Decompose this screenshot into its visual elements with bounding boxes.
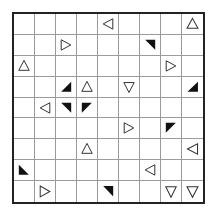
grid-cell-r3-c5[interactable] xyxy=(119,77,140,98)
grid-cell-r5-c5[interactable] xyxy=(119,118,140,139)
grid-cell-r0-c1[interactable] xyxy=(35,14,56,35)
black-triangle-nw-icon xyxy=(161,118,181,138)
grid-cell-r2-c6[interactable] xyxy=(140,56,161,77)
grid-cell-r3-c2[interactable] xyxy=(56,77,77,98)
grid-cell-r7-c2[interactable] xyxy=(56,160,77,181)
grid-cell-r5-c0[interactable] xyxy=(14,118,35,139)
grid-cell-r7-c4[interactable] xyxy=(98,160,119,181)
grid-cell-r4-c6[interactable] xyxy=(140,98,161,119)
grid-cell-r6-c3[interactable] xyxy=(77,139,98,160)
grid-cell-r8-c0[interactable] xyxy=(14,181,35,202)
grid-cell-r5-c7[interactable] xyxy=(161,118,182,139)
grid-cell-r6-c8[interactable] xyxy=(182,139,203,160)
grid-cell-r2-c8[interactable] xyxy=(182,56,203,77)
grid-cell-r4-c4[interactable] xyxy=(98,98,119,119)
grid-cell-r6-c2[interactable] xyxy=(56,139,77,160)
grid-cell-r5-c4[interactable] xyxy=(98,118,119,139)
grid-cell-r0-c0[interactable] xyxy=(14,14,35,35)
grid-cell-r5-c6[interactable] xyxy=(140,118,161,139)
grid-cell-r7-c3[interactable] xyxy=(77,160,98,181)
grid-cell-r2-c0[interactable] xyxy=(14,56,35,77)
grid-cell-r0-c8[interactable] xyxy=(182,14,203,35)
outline-triangle-left-icon xyxy=(98,14,118,34)
outline-triangle-right-icon xyxy=(56,35,76,55)
outline-triangle-down-icon xyxy=(119,77,139,97)
grid-cell-r2-c7[interactable] xyxy=(161,56,182,77)
grid-cell-r2-c3[interactable] xyxy=(77,56,98,77)
black-triangle-se-icon xyxy=(56,77,76,97)
grid-cell-r8-c1[interactable] xyxy=(35,181,56,202)
grid-cell-r4-c3[interactable] xyxy=(77,98,98,119)
outline-triangle-left-icon xyxy=(140,160,160,180)
grid-cell-r5-c3[interactable] xyxy=(77,118,98,139)
black-triangle-ne-icon xyxy=(98,181,118,202)
grid-cell-r1-c1[interactable] xyxy=(35,35,56,56)
grid-cell-r3-c8[interactable] xyxy=(182,77,203,98)
black-triangle-nw-icon xyxy=(77,98,97,118)
grid-cell-r8-c2[interactable] xyxy=(56,181,77,202)
grid-cell-r3-c6[interactable] xyxy=(140,77,161,98)
grid-cell-r1-c5[interactable] xyxy=(119,35,140,56)
grid-cell-r6-c0[interactable] xyxy=(14,139,35,160)
grid-cell-r6-c5[interactable] xyxy=(119,139,140,160)
grid-cell-r5-c2[interactable] xyxy=(56,118,77,139)
grid-cell-r5-c8[interactable] xyxy=(182,118,203,139)
grid-cell-r4-c0[interactable] xyxy=(14,98,35,119)
grid-cell-r6-c7[interactable] xyxy=(161,139,182,160)
grid-cell-r3-c7[interactable] xyxy=(161,77,182,98)
grid-cell-r2-c4[interactable] xyxy=(98,56,119,77)
grid-cell-r4-c8[interactable] xyxy=(182,98,203,119)
grid-cell-r7-c1[interactable] xyxy=(35,160,56,181)
grid-cell-r0-c2[interactable] xyxy=(56,14,77,35)
grid-cell-r0-c5[interactable] xyxy=(119,14,140,35)
grid-cell-r1-c6[interactable] xyxy=(140,35,161,56)
grid-cell-r1-c3[interactable] xyxy=(77,35,98,56)
grid-cell-r3-c4[interactable] xyxy=(98,77,119,98)
outline-triangle-up-icon xyxy=(14,56,34,76)
black-triangle-ne-icon xyxy=(140,35,160,55)
grid-cell-r1-c0[interactable] xyxy=(14,35,35,56)
grid-cell-r2-c1[interactable] xyxy=(35,56,56,77)
grid-cell-r5-c1[interactable] xyxy=(35,118,56,139)
grid-cell-r0-c7[interactable] xyxy=(161,14,182,35)
grid-cell-r3-c1[interactable] xyxy=(35,77,56,98)
grid-cell-r7-c6[interactable] xyxy=(140,160,161,181)
grid-cell-r8-c4[interactable] xyxy=(98,181,119,202)
outline-triangle-down-icon xyxy=(161,181,181,202)
outline-triangle-left-icon xyxy=(35,98,55,118)
grid-cell-r1-c2[interactable] xyxy=(56,35,77,56)
outline-triangle-right-icon xyxy=(35,181,55,202)
grid-cell-r3-c3[interactable] xyxy=(77,77,98,98)
grid-cell-r2-c2[interactable] xyxy=(56,56,77,77)
grid-cell-r6-c1[interactable] xyxy=(35,139,56,160)
grid-cell-r1-c4[interactable] xyxy=(98,35,119,56)
outline-triangle-right-icon xyxy=(119,118,139,138)
grid-cell-r4-c5[interactable] xyxy=(119,98,140,119)
black-triangle-se-icon xyxy=(182,77,203,97)
outline-triangle-right-icon xyxy=(161,56,181,76)
grid-cell-r4-c2[interactable] xyxy=(56,98,77,119)
grid-cell-r2-c5[interactable] xyxy=(119,56,140,77)
grid-cell-r4-c7[interactable] xyxy=(161,98,182,119)
grid-cell-r8-c6[interactable] xyxy=(140,181,161,202)
grid-cell-r0-c3[interactable] xyxy=(77,14,98,35)
grid-cell-r6-c4[interactable] xyxy=(98,139,119,160)
grid-cell-r8-c7[interactable] xyxy=(161,181,182,202)
grid-cell-r7-c5[interactable] xyxy=(119,160,140,181)
grid-cell-r7-c0[interactable] xyxy=(14,160,35,181)
outline-triangle-up-icon xyxy=(77,77,97,97)
grid-cell-r7-c7[interactable] xyxy=(161,160,182,181)
grid-cell-r0-c4[interactable] xyxy=(98,14,119,35)
grid-cell-r8-c3[interactable] xyxy=(77,181,98,202)
grid-cell-r7-c8[interactable] xyxy=(182,160,203,181)
grid-cell-r8-c5[interactable] xyxy=(119,181,140,202)
grid-cell-r1-c7[interactable] xyxy=(161,35,182,56)
grid-cell-r3-c0[interactable] xyxy=(14,77,35,98)
grid-cell-r6-c6[interactable] xyxy=(140,139,161,160)
grid-cell-r1-c8[interactable] xyxy=(182,35,203,56)
grid-cell-r0-c6[interactable] xyxy=(140,14,161,35)
puzzle-grid xyxy=(12,12,205,204)
outline-triangle-up-icon xyxy=(182,14,203,34)
grid-cell-r8-c8[interactable] xyxy=(182,181,203,202)
grid-cell-r4-c1[interactable] xyxy=(35,98,56,119)
